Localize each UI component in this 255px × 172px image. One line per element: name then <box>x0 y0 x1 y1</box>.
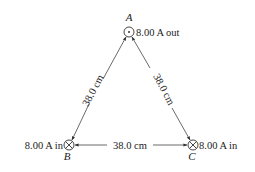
current-out-icon <box>124 27 134 37</box>
edge-a-c-lower-line <box>172 108 190 140</box>
current-in-icon <box>64 140 74 150</box>
edge-a-c-distance-label: 38.0 cm <box>151 72 177 107</box>
edge-b-c-distance-label: 38.0 cm <box>113 140 147 151</box>
edge-a-b-upper-line <box>103 37 126 79</box>
node-b: 8.00 A in B <box>25 140 74 162</box>
current-in-icon <box>188 140 198 150</box>
node-c-current-label: 8.00 A in <box>199 140 238 151</box>
edge-a-c-upper-line <box>132 37 150 68</box>
node-b-label: B <box>64 150 71 162</box>
edge-a-b-lower-line <box>72 104 89 140</box>
node-a-current-label: 8.00 A out <box>136 27 180 38</box>
edge-b-c: 38.0 cm <box>75 140 187 151</box>
edge-a-b: 38.0 cm <box>72 37 126 140</box>
node-a: A 8.00 A out <box>124 11 180 38</box>
node-a-label: A <box>125 11 133 23</box>
triangle-diagram: 38.0 cm 38.0 cm 38.0 cm A 8.00 A out 8.0… <box>0 0 255 172</box>
node-c: 8.00 A in C <box>188 140 238 162</box>
node-c-label: C <box>188 150 196 162</box>
edge-a-b-distance-label: 38.0 cm <box>80 73 106 108</box>
edge-a-c: 38.0 cm <box>132 37 190 140</box>
node-b-current-label: 8.00 A in <box>25 140 64 151</box>
